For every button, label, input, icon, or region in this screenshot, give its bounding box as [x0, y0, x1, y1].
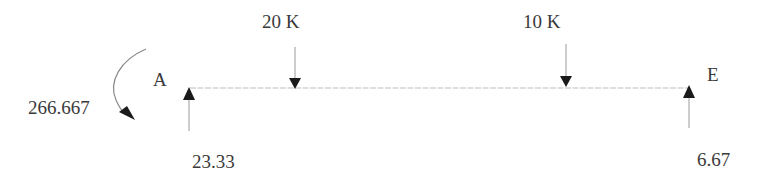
- load-arrow-10k-icon: [560, 44, 572, 87]
- reaction-arrow-e-icon: [683, 85, 695, 128]
- load-label-20k: 20 K: [262, 12, 299, 31]
- reaction-label-a: 23.33: [192, 152, 235, 171]
- reaction-label-e: 6.67: [697, 150, 730, 169]
- node-label-a: A: [153, 70, 167, 89]
- node-label-e: E: [707, 65, 719, 84]
- reaction-arrow-a-icon: [183, 87, 195, 131]
- load-arrow-20k-icon: [289, 47, 301, 89]
- load-label-10k: 10 K: [523, 12, 560, 31]
- diagram-graphics: [0, 0, 761, 183]
- beam-diagram: 20 K 10 K A E 266.667 23.33 6.67: [0, 0, 761, 183]
- moment-arrow-icon: [114, 49, 146, 120]
- moment-label-a: 266.667: [28, 98, 90, 117]
